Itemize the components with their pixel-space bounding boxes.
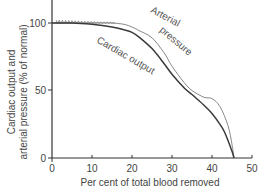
y-axis-title-line1: Cardiac output and: [6, 50, 17, 135]
x-tick-label-0: 0: [49, 163, 55, 174]
cardiac-output-curve: [52, 23, 234, 158]
arterial-label-word2: pressure: [158, 24, 195, 58]
blood-loss-chart: 100 50 0 0 10 20 30 40 50 Per cent of to…: [0, 0, 266, 193]
x-tick-label-10: 10: [86, 163, 98, 174]
x-tick-label-30: 30: [166, 163, 178, 174]
x-tick-label-20: 20: [126, 163, 138, 174]
x-axis-title: Per cent of total blood removed: [81, 177, 220, 188]
x-tick-label-40: 40: [206, 163, 218, 174]
y-axis-title-line2: arterial pressure (% of normal): [18, 24, 29, 159]
x-tick-label-50: 50: [246, 163, 258, 174]
y-tick-label-0: 0: [40, 153, 46, 164]
arterial-pressure-curve: [52, 23, 234, 158]
cardiac-output-label: Cardiac output: [95, 34, 157, 76]
y-tick-label-100: 100: [29, 18, 46, 29]
y-tick-label-50: 50: [35, 85, 47, 96]
